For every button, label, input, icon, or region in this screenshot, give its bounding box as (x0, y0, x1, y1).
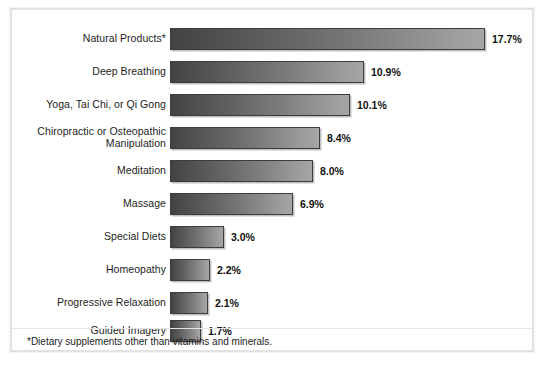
bar-track: 10.1% (170, 94, 532, 116)
bar-track: 2.1% (170, 292, 532, 314)
footnote-divider (12, 328, 532, 329)
bar-row: Homeopathy 2.2% (12, 259, 532, 281)
bar-row: Special Diets 3.0% (12, 226, 532, 248)
bar-track: 17.7% (170, 28, 532, 50)
bar-value-label: 3.0% (231, 226, 255, 248)
bar-category-label: Meditation (12, 165, 166, 177)
bar-row: Natural Products* 17.7% (12, 28, 532, 50)
bar-row: Progressive Relaxation 2.1% (12, 292, 532, 314)
bar-track: 10.9% (170, 61, 532, 83)
bar-chart-plot-area: Natural Products* 17.7% Deep Breathing 1… (12, 10, 532, 328)
bar-category-label: Chiropractic or Osteopathic Manipulation (12, 126, 166, 149)
bar-value-label: 10.1% (357, 94, 387, 116)
bar-value-label: 8.0% (320, 160, 344, 182)
bar-category-label: Massage (12, 198, 166, 210)
bar-row: Deep Breathing 10.9% (12, 61, 532, 83)
bar-category-label: Guided Imagery (12, 325, 166, 337)
bar-value-label: 17.7% (492, 28, 522, 50)
bar-row: Meditation 8.0% (12, 160, 532, 182)
bar-category-label: Natural Products* (12, 33, 166, 45)
bar-value-label: 2.1% (215, 292, 239, 314)
bar-rect (170, 127, 320, 149)
bar-rect (170, 160, 313, 182)
bar-row: Chiropractic or Osteopathic Manipulation… (12, 127, 532, 149)
bar-category-label: Special Diets (12, 231, 166, 243)
bar-category-label: Deep Breathing (12, 66, 166, 78)
footnote-text: *Dietary supplements other than vitamins… (27, 336, 272, 347)
bar-category-label: Homeopathy (12, 264, 166, 276)
bar-track: 2.2% (170, 259, 532, 281)
bar-rect (170, 193, 293, 215)
bar-value-label: 2.2% (217, 259, 241, 281)
bar-track: 6.9% (170, 193, 532, 215)
bar-rect (170, 28, 485, 50)
bar-rect (170, 226, 224, 248)
bar-value-label: 6.9% (300, 193, 324, 215)
chart-figure: Natural Products* 17.7% Deep Breathing 1… (10, 8, 534, 352)
bar-row: Massage 6.9% (12, 193, 532, 215)
bar-category-label: Yoga, Tai Chi, or Qi Gong (12, 99, 166, 111)
bar-value-label: 10.9% (371, 61, 401, 83)
bar-rect (170, 61, 364, 83)
bar-category-label: Progressive Relaxation (12, 297, 166, 309)
bar-row: Yoga, Tai Chi, or Qi Gong 10.1% (12, 94, 532, 116)
bar-rect (170, 94, 350, 116)
bar-rect (170, 292, 208, 314)
bar-track: 8.0% (170, 160, 532, 182)
bar-track: 3.0% (170, 226, 532, 248)
bar-rect (170, 259, 210, 281)
bar-value-label: 8.4% (327, 127, 351, 149)
bar-track: 8.4% (170, 127, 532, 149)
